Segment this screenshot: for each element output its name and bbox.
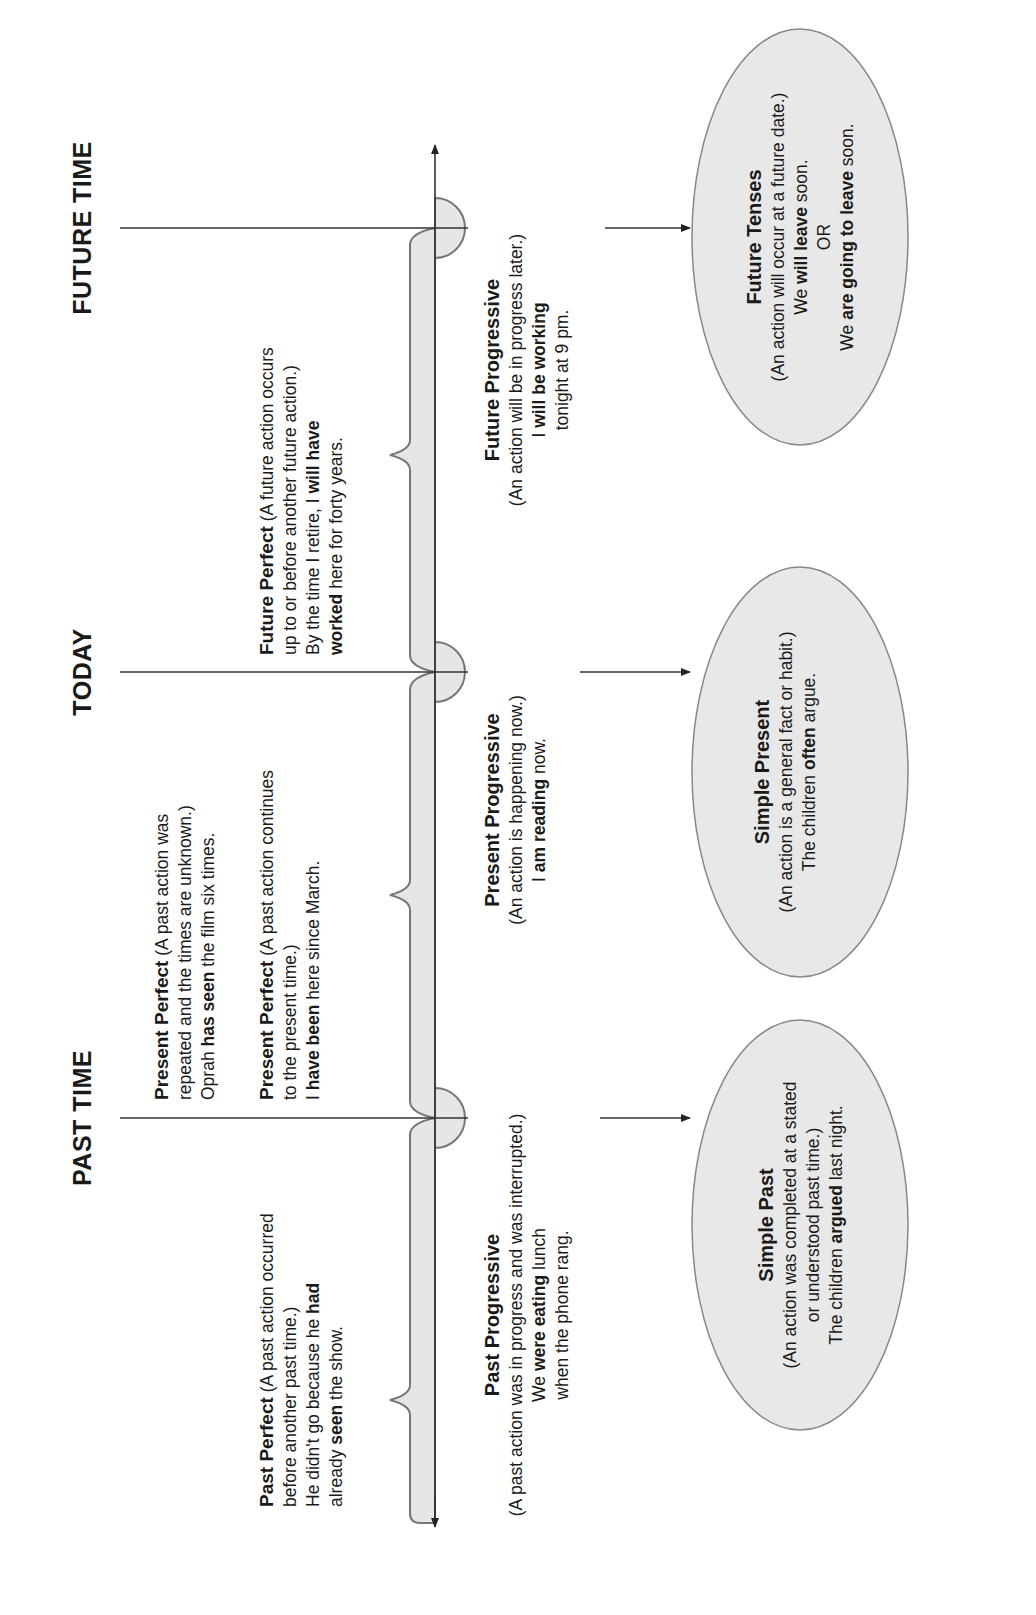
simple-past-text: Simple Past (An action was completed at … (753, 1082, 848, 1369)
future-progressive-block: Future Progressive (An action will be in… (480, 234, 574, 506)
present-progressive-title: Present Progressive (480, 695, 505, 925)
brace-future-perfect (390, 228, 435, 672)
present-perfect-repeated-block: Present Perfect (A past action was repea… (150, 805, 220, 1100)
simple-present-text: Simple Present (An action is a general f… (749, 631, 821, 912)
past-progressive-block: Past Progressive (A past action was in p… (480, 1114, 574, 1517)
tense-timeline-diagram: PAST TIME TODAY FUTURE TIME Past Perfect… (0, 0, 1036, 1615)
future-perfect-block: Future Perfect (A future action occurs u… (255, 347, 348, 655)
simple-past-title: Simple Past (753, 1082, 779, 1369)
future-perfect-title: Future Perfect (256, 526, 277, 655)
present-perfect-title: Present Perfect (256, 961, 277, 1100)
future-progressive-title: Future Progressive (480, 234, 505, 506)
past-progressive-title: Past Progressive (480, 1114, 505, 1517)
era-label-future: FUTURE TIME (68, 141, 97, 315)
present-perfect-title: Present Perfect (151, 961, 172, 1100)
era-label-today: TODAY (68, 628, 97, 715)
brace-present-perfect (390, 672, 435, 1118)
present-perfect-continues-block: Present Perfect (A past action continues… (255, 770, 325, 1100)
simple-present-title: Simple Present (749, 631, 775, 912)
brace-past-perfect (390, 1118, 435, 1523)
future-tenses-title: Future Tenses (741, 93, 767, 382)
era-label-past: PAST TIME (68, 1050, 97, 1186)
past-perfect-block: Past Perfect (A past action occurred bef… (255, 1213, 348, 1507)
past-perfect-title: Past Perfect (256, 1397, 277, 1507)
future-tenses-text: Future Tenses (An action will occur at a… (741, 93, 859, 382)
present-progressive-block: Present Progressive (An action is happen… (480, 695, 551, 925)
